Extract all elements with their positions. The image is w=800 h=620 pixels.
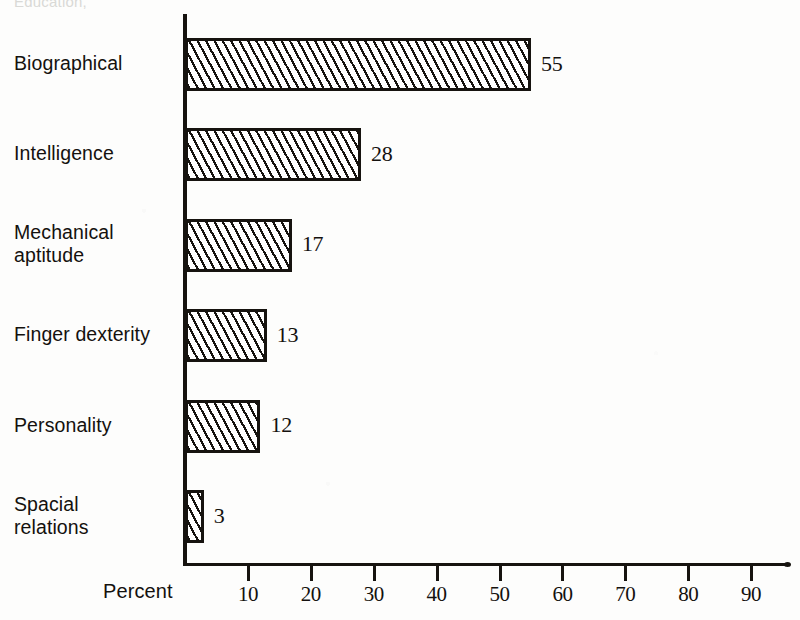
category-label-line: Mechanical — [14, 221, 179, 244]
bar-value-label: 12 — [270, 412, 291, 438]
x-axis-tick — [310, 566, 313, 581]
category-label-line: Finger dexterity — [14, 323, 179, 346]
bar — [185, 128, 361, 181]
x-axis-tick — [499, 566, 502, 581]
cut-off-caption: Education, — [14, 0, 87, 10]
category-label-line: aptitude — [14, 244, 179, 267]
category-label: Biographical — [14, 52, 179, 75]
bar — [185, 219, 292, 272]
x-axis-tick-label: 70 — [615, 582, 635, 607]
category-label-line: Intelligence — [14, 142, 179, 165]
x-axis-tick — [687, 566, 690, 581]
bar — [185, 400, 260, 453]
bar — [185, 490, 204, 543]
x-axis-tick — [624, 566, 627, 581]
category-label-line: Personality — [14, 414, 179, 437]
x-axis-tick — [750, 566, 753, 581]
category-label-line: Biographical — [14, 52, 179, 75]
bar-value-label: 55 — [541, 51, 562, 77]
x-axis-tick-label: 90 — [741, 582, 761, 607]
x-axis-tick-label: 40 — [427, 582, 447, 607]
x-axis-tick — [373, 566, 376, 581]
x-axis-tick-label: 60 — [552, 582, 572, 607]
x-axis-tick-label: 30 — [364, 582, 384, 607]
x-axis-label: Percent — [103, 580, 173, 603]
x-axis-tick-label: 50 — [490, 582, 510, 607]
x-axis-tick-label: 80 — [678, 582, 698, 607]
bar — [185, 309, 267, 362]
bar — [185, 38, 531, 91]
category-label-line: relations — [14, 516, 179, 539]
x-axis-tick-label: 20 — [301, 582, 321, 607]
bar-chart-figure: Education, 102030405060708090 Percent Bi… — [0, 0, 800, 620]
x-axis-tick — [561, 566, 564, 581]
category-label: Spacialrelations — [14, 493, 179, 539]
x-axis-spine — [183, 563, 790, 566]
bar-value-label: 13 — [277, 322, 298, 348]
bar-value-label: 3 — [214, 503, 225, 529]
category-label: Finger dexterity — [14, 323, 179, 346]
category-label: Mechanicalaptitude — [14, 221, 179, 267]
y-axis-spine — [183, 14, 187, 566]
x-axis-tick — [436, 566, 439, 581]
x-axis-tick-label: 10 — [238, 582, 258, 607]
category-label: Intelligence — [14, 142, 179, 165]
bar-value-label: 17 — [302, 231, 323, 257]
bar-value-label: 28 — [371, 141, 392, 167]
x-axis-tick — [247, 566, 250, 581]
category-label-line: Spacial — [14, 493, 179, 516]
category-label: Personality — [14, 414, 179, 437]
